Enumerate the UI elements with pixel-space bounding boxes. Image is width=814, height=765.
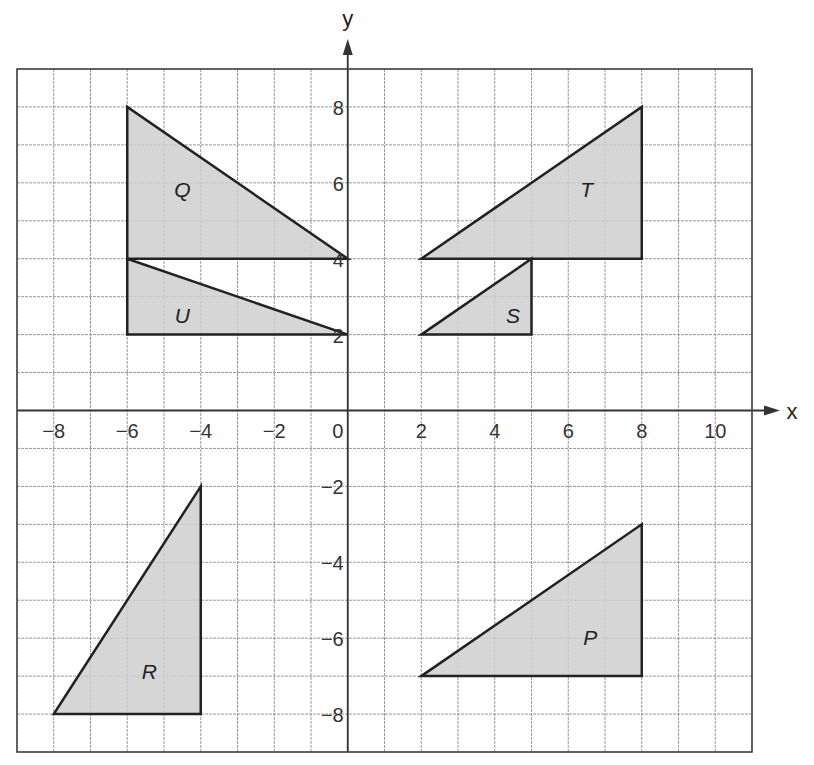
x-axis-label: x <box>787 399 798 424</box>
triangle-label: Q <box>174 178 190 201</box>
y-tick-label: −8 <box>321 704 344 726</box>
x-tick-label: 0 <box>332 420 343 442</box>
triangle-label: T <box>580 178 595 201</box>
y-tick-label: 2 <box>333 325 344 347</box>
y-tick-label: −4 <box>321 552 344 574</box>
x-tick-label: 6 <box>563 420 574 442</box>
x-tick-label: −2 <box>263 420 286 442</box>
y-tick-label: −6 <box>321 628 344 650</box>
x-tick-label: 4 <box>489 420 500 442</box>
y-axis-label: y <box>342 6 353 31</box>
y-axis-arrow-icon <box>343 39 353 55</box>
triangle-label: R <box>142 660 157 683</box>
coordinate-plane: QUTSRP x y −8−6−4−202468108642−2−4−6−8 <box>0 0 814 765</box>
y-tick-label: −2 <box>321 476 344 498</box>
y-tick-label: 6 <box>333 173 344 195</box>
x-axis-arrow-icon <box>764 406 780 416</box>
triangle-label: U <box>175 304 191 327</box>
triangle-label: P <box>583 626 597 649</box>
triangle-label: S <box>506 304 520 327</box>
x-tick-label: 10 <box>704 420 726 442</box>
x-tick-label: 2 <box>416 420 427 442</box>
x-tick-label: −4 <box>189 420 212 442</box>
x-tick-label: −8 <box>42 420 65 442</box>
y-tick-label: 8 <box>333 97 344 119</box>
x-tick-label: −6 <box>116 420 139 442</box>
x-tick-label: 8 <box>636 420 647 442</box>
y-tick-label: 4 <box>333 249 344 271</box>
